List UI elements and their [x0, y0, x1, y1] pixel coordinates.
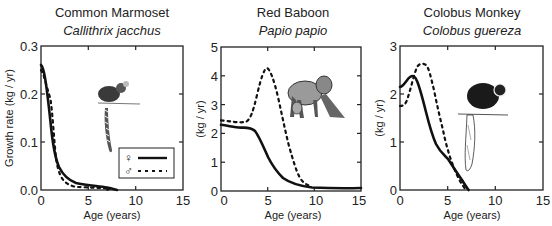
y-tick-label: 0.1 [20, 135, 38, 150]
x-tick-label: 5 [264, 193, 271, 208]
panel-title: Common Marmoset [55, 5, 170, 20]
x-tick-label: 5 [444, 193, 451, 208]
x-tick-label: 10 [488, 193, 502, 208]
colobus-illustration [458, 83, 508, 171]
y-tick-label: 0.2 [20, 87, 38, 102]
x-tick-label: 0 [37, 193, 44, 208]
baboon-illustration [288, 76, 345, 118]
y-tick-label: 2 [390, 87, 397, 102]
y-tick-label: 0.3 [20, 39, 38, 54]
y-tick-label: 4 [211, 69, 218, 84]
panel-subtitle: Papio papio [259, 23, 328, 38]
panel-colobus: Colobus Monkey Colobus guereza 0 1 2 3 0… [373, 5, 550, 221]
panel-baboon: Red Baboon Papio papio 0 1 2 3 4 5 0 5 1… [194, 5, 366, 221]
y-tick-label: 0.0 [20, 183, 38, 198]
male-symbol-icon: ♂ [124, 164, 133, 178]
x-axis-label: Age (years) [265, 209, 322, 221]
y-tick-label: 2 [211, 126, 218, 141]
y-tick-label: 1 [390, 135, 397, 150]
y-tick-label: 3 [211, 98, 218, 113]
x-axis-label: Age (years) [444, 209, 501, 221]
y-axis-label: (kg / yr) [373, 99, 385, 136]
female-symbol-icon: ♀ [124, 151, 133, 165]
y-tick-label: 5 [211, 40, 218, 55]
x-tick-label: 0 [220, 193, 227, 208]
x-axis-label: Age (years) [84, 209, 141, 221]
panel-title: Colobus Monkey [424, 5, 521, 20]
y-tick-label: 3 [390, 39, 397, 54]
plot-frame [221, 47, 361, 191]
x-tick-label: 10 [128, 193, 142, 208]
x-tick-label: 0 [396, 193, 403, 208]
panel-title: Red Baboon [257, 5, 329, 20]
panel-subtitle: Colobus guereza [423, 23, 521, 38]
growth-rate-figure: Common Marmoset Callithrix jacchus 0.0 0… [0, 0, 552, 226]
x-tick-label: 15 [536, 193, 550, 208]
x-tick-label: 10 [309, 193, 323, 208]
tick-marks [221, 47, 361, 191]
y-axis-label: Growth rate (kg / yr) [3, 69, 15, 167]
x-tick-label: 15 [352, 193, 366, 208]
y-axis-label: (kg / yr) [194, 100, 206, 137]
marmoset-illustration [98, 81, 140, 152]
x-tick-label: 15 [176, 193, 190, 208]
y-tick-label: 0 [211, 184, 218, 199]
x-tick-label: 5 [85, 193, 92, 208]
legend: ♀ ♂ [119, 148, 174, 178]
panel-subtitle: Callithrix jacchus [63, 23, 161, 38]
panel-marmoset: Common Marmoset Callithrix jacchus 0.0 0… [3, 5, 190, 221]
y-tick-label: 1 [211, 155, 218, 170]
